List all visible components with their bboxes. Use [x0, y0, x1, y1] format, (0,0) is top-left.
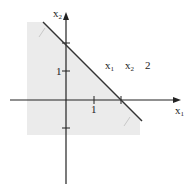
x-axis-arrow-icon — [173, 97, 181, 103]
inequality-label-var2: x2 — [125, 59, 135, 73]
y-axis-label: x2 — [53, 7, 63, 21]
inequality-label: x1 — [105, 59, 115, 73]
y-axis-arrow-icon — [63, 12, 69, 20]
x-axis-label: x1 — [175, 104, 185, 118]
shaded-region — [27, 22, 142, 135]
y-tick-label-1: 1 — [56, 65, 62, 77]
inequality-label-rhs: 2 — [145, 59, 151, 71]
x-tick-label-1: 1 — [91, 103, 97, 115]
inequality-diagram: x2 x1 1 1 x1 x2 2 — [0, 0, 191, 194]
